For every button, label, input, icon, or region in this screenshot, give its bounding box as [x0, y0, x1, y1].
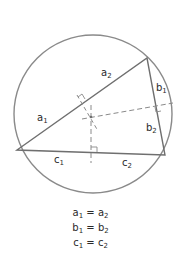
circumcenter-point	[90, 116, 93, 119]
right-angle-mark-c	[91, 147, 97, 152]
label-b2: b2	[146, 122, 157, 135]
label-a2: a2	[101, 67, 112, 80]
equation-c: c1 = c2	[0, 236, 181, 253]
label-b1: b1	[156, 82, 167, 95]
label-c2: c2	[122, 157, 132, 170]
label-c1: c1	[54, 154, 64, 167]
label-a1: a1	[37, 112, 48, 125]
